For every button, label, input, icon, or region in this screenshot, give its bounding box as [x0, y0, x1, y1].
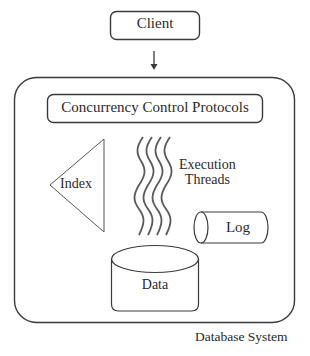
diagram-graphics [0, 0, 310, 356]
client-label: Client [110, 16, 200, 31]
database-system-label: Database System [195, 330, 288, 344]
execution-threads-label-line1: Execution [179, 157, 236, 172]
execution-threads-label-line2: Threads [179, 172, 236, 187]
execution-threads-label: Execution Threads [179, 157, 236, 187]
concurrency-control-label: Concurrency Control Protocols [47, 100, 263, 115]
log-label: Log [214, 220, 262, 235]
data-label: Data [111, 278, 199, 292]
diagram-canvas: Client Concurrency Control Protocols Ind… [0, 0, 310, 356]
index-label: Index [60, 177, 92, 191]
execution-threads-icon [135, 137, 172, 235]
client-to-system-arrow [151, 51, 158, 70]
